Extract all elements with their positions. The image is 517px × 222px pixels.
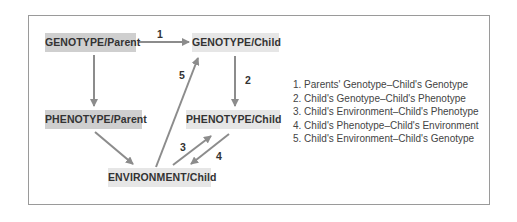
arrow-3 bbox=[173, 136, 211, 165]
arrow-label-5: 5 bbox=[179, 69, 185, 81]
arrow-label-2: 2 bbox=[245, 74, 251, 86]
legend-item: 3. Child's Environment–Child's Phenotype bbox=[293, 105, 479, 119]
node-genotype-parent: GENOTYPE/Parent bbox=[45, 33, 136, 52]
node-genotype-child: GENOTYPE/Child bbox=[192, 33, 279, 52]
node-phenotype-child: PHENOTYPE/Child bbox=[186, 110, 280, 129]
arrow-label-4: 4 bbox=[216, 150, 222, 162]
arrow-4 bbox=[191, 134, 229, 164]
legend-item: 1. Parents' Genotype–Child's Genotype bbox=[293, 78, 479, 92]
legend-item: 5. Child's Environment–Child's Genotype bbox=[293, 132, 479, 146]
legend: 1. Parents' Genotype–Child's Genotype 2.… bbox=[293, 78, 479, 146]
node-phenotype-parent: PHENOTYPE/Parent bbox=[45, 110, 142, 129]
legend-item: 4. Child's Phenotype–Child's Environment bbox=[293, 119, 479, 133]
arrow-label-1: 1 bbox=[157, 28, 163, 40]
node-environment-child: ENVIRONMENT/Child bbox=[108, 168, 211, 187]
arrow-phenotype-parent-to-environment bbox=[95, 132, 133, 164]
arrow-label-3: 3 bbox=[180, 141, 186, 153]
legend-item: 2. Child's Genotype–Child's Phenotype bbox=[293, 92, 479, 106]
